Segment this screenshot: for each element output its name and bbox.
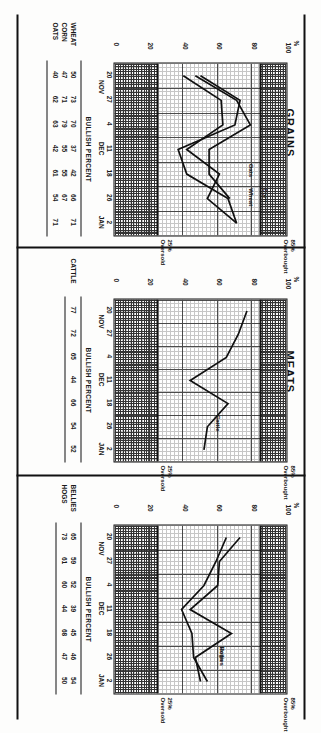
y-tick-0: 0 [112, 42, 119, 46]
x-tick-6: 2 [105, 220, 112, 224]
x-month-nov: NOV [97, 541, 104, 555]
overbought-caption-value: 85% [289, 697, 295, 709]
table-rule-top [80, 522, 81, 694]
table-cell: 54 [69, 676, 76, 683]
overbought-caption-value: 85% [289, 465, 295, 477]
table-row-label-wheat: WHEAT [69, 22, 76, 45]
x-tick-0: 20 [105, 71, 112, 78]
y-tick-40: 40 [181, 504, 188, 511]
chart-panel-grains: 100806040200%202741118262NOVDECJAN85%Ove… [23, 22, 299, 240]
table-title: BULLISH PERCENT [84, 576, 91, 642]
x-tick-5: 26 [105, 652, 112, 659]
table-cell: 54 [69, 422, 76, 429]
x-month-jan: JAN [97, 442, 104, 455]
x-tick-5: 26 [105, 422, 112, 429]
series-tag-corn: Corn [261, 188, 267, 202]
table-cell: 40 [51, 71, 58, 78]
chart-panel-cattle: 100806040200%202741118262NOVDECJAN85%Ove… [23, 258, 299, 466]
table-cell: 44 [69, 375, 76, 382]
x-tick-2: 4 [105, 582, 112, 586]
plot-grid [113, 298, 287, 462]
table-cell: 68 [60, 628, 67, 635]
series-lines [114, 525, 286, 693]
y-tick-60: 60 [215, 278, 222, 285]
series-tag-cattle: Cattle [214, 414, 220, 431]
table-rule-bottom [46, 60, 47, 236]
table-cell: 61 [60, 556, 67, 563]
x-tick-2: 4 [105, 122, 112, 126]
oversold-caption: 25%Oversold [158, 697, 172, 723]
table-row-label-cattle: CATTLE [69, 258, 76, 283]
table-cell: 37 [69, 144, 76, 151]
table-cell: 45 [69, 628, 76, 635]
table-rule-bottom [64, 296, 65, 462]
table-row-label-hogs: HOGS [60, 484, 67, 503]
x-tick-1: 27 [105, 95, 112, 102]
y-tick-60: 60 [215, 504, 222, 511]
table-row-label-bellies: BELLIES [69, 484, 76, 511]
series-corn [195, 75, 250, 198]
series-tag-oats: Oats [247, 163, 253, 176]
table-cell: 70 [69, 120, 76, 127]
table-cell: 62 [51, 95, 58, 102]
table-cell: 66 [69, 194, 76, 201]
y-tick-0: 0 [112, 278, 119, 282]
table-cell: 47 [60, 71, 67, 78]
x-tick-1: 27 [105, 329, 112, 336]
x-tick-1: 27 [105, 556, 112, 563]
table-cell: 50 [60, 676, 67, 683]
table-cell: 54 [51, 194, 58, 201]
series-tag-wheat: Wheat [247, 188, 253, 206]
y-tick-80: 80 [250, 42, 257, 49]
series-hogs [190, 537, 240, 681]
table-cell: 60 [60, 580, 67, 587]
y-tick-40: 40 [181, 42, 188, 49]
y-tick-40: 40 [181, 278, 188, 285]
table-cell: 72 [69, 329, 76, 336]
table-cell: 44 [60, 604, 67, 611]
x-month-dec: DEC [97, 372, 104, 386]
x-tick-3: 11 [105, 605, 112, 612]
table-cell: 71 [60, 95, 67, 102]
x-month-dec: DEC [97, 601, 104, 615]
x-tick-3: 11 [105, 376, 112, 383]
series-tag-hogs: Hogs [218, 646, 224, 661]
y-tick-80: 80 [250, 504, 257, 511]
table-rule-top [80, 296, 81, 462]
oversold-caption-value: 25% [166, 465, 172, 477]
table-cell: 59 [69, 556, 76, 563]
table-cell: 39 [69, 604, 76, 611]
x-tick-4: 18 [105, 399, 112, 406]
y-axis-unit: % [292, 40, 299, 46]
table-cell: 50 [69, 71, 76, 78]
plot-grid [113, 524, 287, 694]
table-cell: 73 [69, 95, 76, 102]
plot-grid [113, 62, 287, 236]
table-cell: 79 [60, 120, 67, 127]
x-tick-6: 2 [105, 678, 112, 682]
x-month-jan: JAN [97, 673, 104, 686]
chart-panel-bellies-hogs: 100806040200%202741118262NOVDECJAN85%Ove… [23, 484, 299, 698]
table-cell: 52 [69, 445, 76, 452]
table-cell: 52 [69, 580, 76, 587]
x-month-dec: DEC [97, 141, 104, 155]
table-row-label-corn: CORN [60, 22, 67, 41]
x-tick-5: 26 [105, 194, 112, 201]
x-tick-0: 20 [105, 532, 112, 539]
x-month-nov: NOV [97, 314, 104, 328]
table-cell: 77 [69, 306, 76, 313]
oversold-caption-label: Oversold [159, 697, 165, 723]
table-title: BULLISH PERCENT [84, 347, 91, 413]
oversold-caption-value: 25% [166, 697, 172, 709]
table-cell: 55 [60, 144, 67, 151]
x-tick-2: 4 [105, 354, 112, 358]
x-tick-6: 2 [105, 447, 112, 451]
scanned-page: GRAINSMEATS 100806040200%202741118262NOV… [0, 0, 321, 733]
overbought-caption-value: 85% [289, 239, 295, 251]
table-cell: 42 [69, 169, 76, 176]
overbought-caption: 85%Overbought [281, 697, 295, 731]
y-tick-20: 20 [146, 504, 153, 511]
x-tick-0: 20 [105, 306, 112, 313]
x-month-jan: JAN [97, 215, 104, 228]
series-lines [114, 299, 286, 461]
